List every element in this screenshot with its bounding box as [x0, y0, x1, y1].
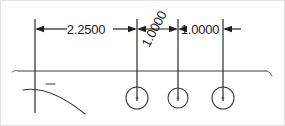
- left-feature-group: [23, 84, 85, 114]
- fillet-arc: [23, 89, 85, 114]
- dim-label-1: 2.2500: [67, 22, 106, 37]
- holes-group: [126, 87, 234, 109]
- arrow-right-3: [223, 26, 232, 32]
- break-mark-right: [267, 71, 272, 76]
- arrow-left-1: [35, 26, 44, 32]
- break-mark-left: [12, 70, 19, 72]
- engineering-drawing: 2.2500 1.0000 1.0000: [1, 1, 285, 126]
- dimension-1-0000: 1.0000: [178, 22, 241, 37]
- arrow-right-1: [128, 26, 137, 32]
- dimension-2-2500: 2.2500: [35, 22, 137, 37]
- cad-drawing-canvas: 2.2500 1.0000 1.0000: [0, 0, 285, 126]
- arrow-right-2: [169, 26, 178, 32]
- part-edge-group: [12, 70, 272, 76]
- dim-label-3: 1.0000: [181, 22, 220, 37]
- dimension-1-0000-rotated: 1.0000: [137, 8, 178, 49]
